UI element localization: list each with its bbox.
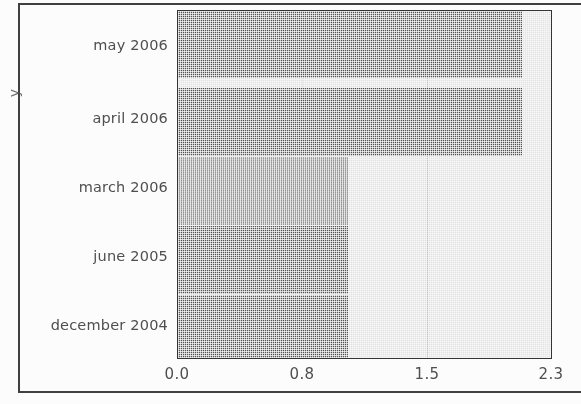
y-axis-tick-labels: may 2006 april 2006 march 2006 june 2005… [0,0,168,404]
y-tick-label: april 2006 [92,110,168,126]
x-tick-label: 0.8 [290,365,315,383]
bar-chart-figure: y may 2006 april 2006 march 2006 june 20… [0,0,581,404]
x-tick-label: 0.0 [165,365,190,383]
bar-march-2006 [178,157,348,225]
plot-area [177,10,552,359]
x-tick-label: 1.5 [415,365,440,383]
bar-june-2005 [178,226,348,294]
y-tick-label: may 2006 [93,37,168,53]
bar-may-2006 [178,11,522,78]
y-tick-label: march 2006 [79,179,168,195]
y-tick-label: june 2005 [93,248,168,264]
bar-april-2006 [178,88,522,156]
y-tick-label: december 2004 [51,317,168,333]
bar-december-2004 [178,295,348,358]
x-tick-label: 2.3 [539,365,564,383]
